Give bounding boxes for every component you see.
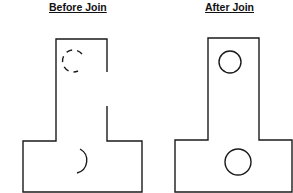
before-top-hole-broken	[62, 50, 82, 72]
after-outline-closed	[175, 38, 292, 192]
after-join-panel	[175, 38, 292, 192]
diagram-canvas	[0, 0, 293, 193]
after-bottom-hole	[225, 149, 251, 175]
after-top-hole	[219, 51, 241, 73]
before-join-panel	[23, 39, 142, 192]
before-outline-open	[23, 39, 142, 192]
before-bottom-hole-arc	[77, 149, 87, 173]
